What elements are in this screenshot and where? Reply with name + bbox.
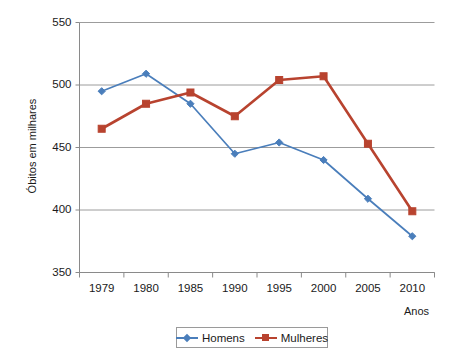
data-point-marker <box>276 139 283 146</box>
data-point-marker <box>187 89 194 96</box>
legend-entry[interactable]: Mulheres <box>255 332 328 344</box>
legend-label: Mulheres <box>281 332 328 344</box>
line-chart: Óbitos em milhares Anos 350400450500550 … <box>0 0 476 363</box>
data-point-marker <box>231 113 238 120</box>
data-point-marker <box>98 125 105 132</box>
data-point-marker <box>143 100 150 107</box>
plot-area <box>0 0 476 363</box>
series-layer <box>98 70 416 240</box>
data-point-marker <box>409 208 416 215</box>
data-point-marker <box>320 73 327 80</box>
data-point-marker <box>276 77 283 84</box>
y-tick-marks <box>76 23 80 273</box>
legend-label: Homens <box>202 332 245 344</box>
legend: HomensMulheres <box>176 327 328 348</box>
legend-diamond-marker-icon <box>176 333 198 343</box>
legend-marker <box>262 334 269 341</box>
data-point-marker <box>98 88 105 95</box>
legend-entry[interactable]: Homens <box>176 332 245 344</box>
x-tick-marks <box>80 273 435 278</box>
legend-marker <box>183 333 191 341</box>
data-point-marker <box>364 140 371 147</box>
legend-square-marker-icon <box>255 333 277 343</box>
